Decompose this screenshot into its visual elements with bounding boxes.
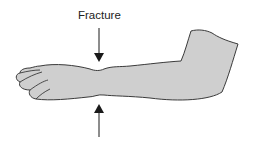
- arm-illustration: [0, 0, 256, 146]
- arrow-down-icon: [94, 28, 104, 62]
- fracture-label: Fracture: [78, 8, 121, 22]
- arrow-up-icon: [94, 104, 104, 137]
- fracture-diagram: Fracture: [0, 0, 256, 146]
